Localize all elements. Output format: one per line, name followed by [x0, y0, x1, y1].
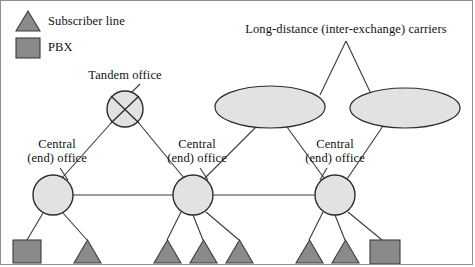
subscriber-line-symbol-5[interactable]	[296, 240, 323, 263]
leader-long-distance-left	[320, 41, 346, 95]
pbx-symbol-2[interactable]	[370, 240, 400, 264]
legend-label-pbx: PBX	[48, 40, 73, 54]
carrier-ellipse-2[interactable]	[350, 88, 460, 128]
legend-square-icon	[16, 38, 40, 58]
drop-central-2-subscriber-2	[193, 215, 203, 240]
leader-tandem-office	[131, 84, 140, 93]
subscriber-line-symbol-6[interactable]	[332, 240, 359, 263]
central-office-label-3: Central (end) office	[294, 137, 376, 165]
leader-long-distance-right	[346, 41, 372, 96]
central-office-circle-1[interactable]	[33, 175, 73, 215]
pbx-symbol-1[interactable]	[13, 240, 41, 263]
central-office-label-3-line2: (end) office	[305, 151, 365, 165]
central-office-label-2-line2: (end) office	[167, 151, 227, 165]
drop-central-3-subscriber-1	[309, 212, 323, 240]
drop-central-3-subscriber-2	[335, 215, 345, 240]
drop-central-2-subscriber-3	[206, 212, 239, 240]
central-office-circle-2[interactable]	[173, 175, 213, 215]
central-office-circle-3[interactable]	[315, 175, 355, 215]
central-office-label-1-line2: (end) office	[27, 151, 87, 165]
drop-central-3-pbx	[348, 212, 382, 240]
subscriber-line-symbol-2[interactable]	[154, 240, 181, 263]
tandem-office-node[interactable]	[107, 91, 143, 127]
long-distance-carriers-label: Long-distance (inter-exchange) carriers	[226, 22, 466, 36]
legend-label-subscriber-line: Subscriber line	[48, 14, 125, 28]
drop-central-1-subscriber-1	[63, 213, 87, 240]
central-office-label-3-line1: Central	[316, 137, 354, 151]
subscriber-line-symbol-1[interactable]	[74, 240, 101, 263]
subscriber-line-symbol-4[interactable]	[226, 240, 253, 263]
central-office-label-1: Central (end) office	[16, 137, 98, 165]
central-office-label-1-line1: Central	[38, 137, 76, 151]
central-office-label-2-line1: Central	[178, 137, 216, 151]
drop-central-1-pbx	[27, 213, 43, 240]
drop-central-2-subscriber-1	[167, 212, 181, 240]
network-diagram-figure: Subscriber line PBX Tandem office Long-d…	[0, 0, 475, 267]
subscriber-line-symbol-3[interactable]	[190, 240, 217, 263]
carrier-ellipse-1[interactable]	[215, 86, 325, 128]
central-office-label-2: Central (end) office	[156, 137, 238, 165]
tandem-office-label: Tandem office	[83, 68, 167, 82]
legend-triangle-icon	[16, 11, 40, 31]
